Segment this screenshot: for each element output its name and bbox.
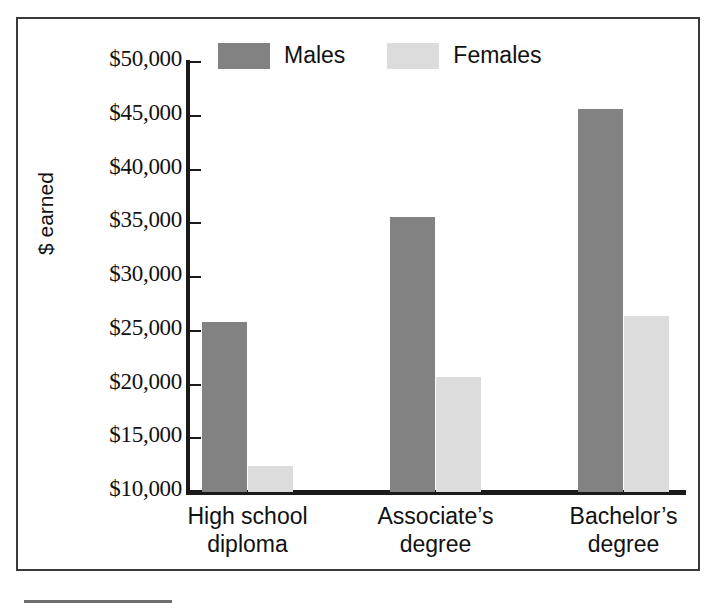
- y-axis-tick-label: $15,000: [54, 422, 182, 448]
- bar-group: [578, 58, 669, 492]
- bar-males-2: [390, 217, 435, 492]
- y-axis-tick-label: $45,000: [54, 100, 182, 126]
- category-label-line2: diploma: [164, 530, 331, 558]
- legend-label: Females: [453, 42, 541, 69]
- scan-artifact-rule: [24, 600, 172, 603]
- category-label-line1: Associate’s: [378, 503, 494, 529]
- plot-region: [188, 58, 686, 492]
- y-axis-tick-label: $40,000: [54, 154, 182, 180]
- legend-swatch-males: [218, 43, 270, 69]
- legend-item-females: Females: [387, 42, 541, 69]
- category-label: High schooldiploma: [164, 502, 331, 558]
- bar-males-1: [202, 322, 247, 492]
- bar-group: [390, 58, 481, 492]
- y-axis-tick-label: $10,000: [54, 476, 182, 502]
- category-label-line2: degree: [352, 530, 519, 558]
- bar-females-1: [248, 466, 293, 492]
- bar-group: [202, 58, 293, 492]
- y-axis-tick-label: $30,000: [54, 261, 182, 287]
- y-axis-tick-label: $25,000: [54, 315, 182, 341]
- legend-item-males: Males: [218, 42, 345, 69]
- category-label-line2: degree: [540, 530, 707, 558]
- y-axis-tick-label: $35,000: [54, 207, 182, 233]
- bar-chart: $ earned $50,000$45,000$40,000$35,000$30…: [0, 0, 721, 613]
- category-label-line1: High school: [187, 503, 307, 529]
- bar-males-3: [578, 109, 623, 492]
- legend-swatch-females: [387, 43, 439, 69]
- y-axis-tick-labels: $50,000$45,000$40,000$35,000$30,000$25,0…: [42, 0, 182, 613]
- category-label: Associate’sdegree: [352, 502, 519, 558]
- category-label: Bachelor’sdegree: [540, 502, 707, 558]
- category-label-line1: Bachelor’s: [570, 503, 678, 529]
- legend-label: Males: [284, 42, 345, 69]
- y-axis-tick-label: $20,000: [54, 369, 182, 395]
- bar-females-2: [436, 377, 481, 492]
- chart-legend: MalesFemales: [218, 42, 542, 69]
- bar-females-3: [624, 316, 669, 492]
- y-axis-tick-label: $50,000: [54, 46, 182, 72]
